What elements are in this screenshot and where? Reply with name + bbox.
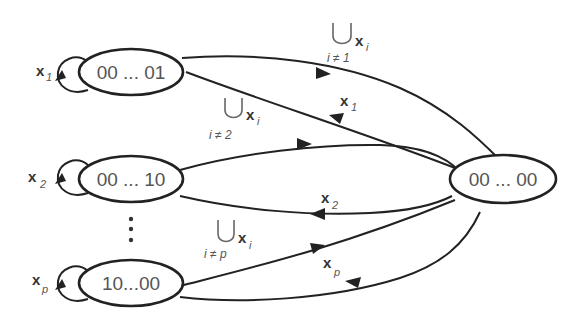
state-label: 10...00 xyxy=(102,273,160,294)
self-loop-label-sp: x p xyxy=(32,271,48,295)
condition-label: i ≠ 1 xyxy=(327,51,350,65)
arrow-head-icon xyxy=(345,277,361,288)
arrow-head-icon xyxy=(310,208,325,220)
arrow-head-icon xyxy=(310,243,325,254)
subscript: i xyxy=(257,115,260,127)
symbol-x: x xyxy=(321,189,330,206)
state-label: 00 ... 10 xyxy=(97,169,166,190)
edge-label-union-2: x i i ≠ 2 xyxy=(209,98,260,142)
condition-label: i ≠ p xyxy=(204,247,227,261)
edge-label-xp: x p xyxy=(323,254,340,278)
state-node-s0: 00 ... 00 xyxy=(450,155,556,203)
subscript: p xyxy=(41,283,48,295)
symbol-x: x xyxy=(32,271,41,288)
state-node-s1: 00 ... 01 xyxy=(79,49,183,95)
subscript: p xyxy=(333,266,340,278)
edge-label-union-1: x i i ≠ 1 xyxy=(327,23,369,65)
subscript: i xyxy=(249,239,252,251)
symbol-x: x xyxy=(36,62,45,79)
union-icon xyxy=(225,98,242,118)
arrow-head-icon xyxy=(55,70,66,81)
symbol-x: x xyxy=(340,92,349,109)
symbol-x: x xyxy=(323,254,332,271)
vertical-ellipsis xyxy=(129,217,133,242)
edge-label-x2: x 2 xyxy=(321,189,338,211)
union-icon xyxy=(333,23,351,44)
arrow-head-icon xyxy=(55,279,66,290)
edge-label-union-p: x i i ≠ p xyxy=(204,220,252,261)
arrow-head-icon xyxy=(55,173,66,184)
subscript: i xyxy=(366,41,369,53)
subscript: 1 xyxy=(46,71,52,83)
symbol-x: x xyxy=(246,106,255,123)
self-loop-label-s2: x 2 xyxy=(28,168,46,190)
state-label: 00 ... 01 xyxy=(97,62,166,83)
condition-label: i ≠ 2 xyxy=(209,128,232,142)
symbol-x: x xyxy=(28,168,37,185)
state-node-s2: 00 ... 10 xyxy=(79,156,183,202)
state-diagram: 00 ... 01 00 ... 10 10...00 00 ... 00 x … xyxy=(0,0,588,330)
state-node-sp: 10...00 xyxy=(79,260,183,306)
subscript: 2 xyxy=(331,199,338,211)
symbol-x: x xyxy=(355,32,364,49)
edge-s0-to-s1 xyxy=(186,72,455,168)
subscript: 2 xyxy=(39,178,46,190)
symbol-x: x xyxy=(238,229,247,246)
edge-label-x1: x 1 xyxy=(340,92,357,113)
self-loop-label-s1: x 1 xyxy=(36,62,52,83)
arrow-head-icon xyxy=(316,67,331,79)
subscript: 1 xyxy=(351,101,357,113)
state-label: 00 ... 00 xyxy=(469,169,538,190)
union-icon xyxy=(218,220,234,242)
